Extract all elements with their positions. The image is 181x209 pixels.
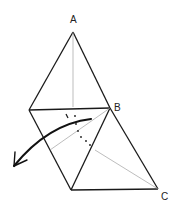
edge-b-c xyxy=(110,108,158,189)
vertex-label-c: C xyxy=(161,192,168,202)
crease-mid-c xyxy=(95,150,158,189)
diagram-svg xyxy=(0,0,181,209)
edge-bottom-c xyxy=(71,189,158,190)
edge-a-left xyxy=(29,32,73,110)
vertex-label-a: A xyxy=(70,15,77,25)
edge-b-bottom xyxy=(71,108,110,190)
lower-flaps xyxy=(29,108,158,190)
edge-a-b xyxy=(73,32,110,108)
edge-left-b xyxy=(29,108,110,110)
top-triangle xyxy=(29,32,110,110)
fold-arrow-curve xyxy=(14,119,91,166)
vertex-label-b: B xyxy=(114,103,121,113)
origami-diagram: A B C xyxy=(0,0,181,209)
fold-arrow xyxy=(14,119,91,166)
